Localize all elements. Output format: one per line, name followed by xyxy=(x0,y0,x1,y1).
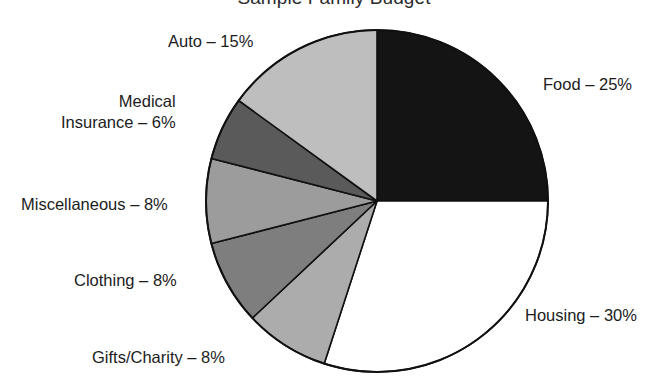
slice-label-auto: Auto – 15% xyxy=(168,31,253,52)
slice-label-food-line-1: Food – 25% xyxy=(543,74,632,95)
pie-slice-food[interactable] xyxy=(377,30,548,201)
pie-slice-group xyxy=(206,30,548,372)
slice-label-gifts-charity-line-1: Gifts/Charity – 8% xyxy=(92,347,225,368)
slice-label-medical-insurance-line-1: Medical xyxy=(61,91,176,112)
slice-label-gifts-charity: Gifts/Charity – 8% xyxy=(92,347,225,368)
slice-label-housing-line-1: Housing – 30% xyxy=(525,305,637,326)
slice-label-miscellaneous-line-1: Miscellaneous – 8% xyxy=(21,194,168,215)
slice-label-miscellaneous: Miscellaneous – 8% xyxy=(21,194,168,215)
slice-label-auto-line-1: Auto – 15% xyxy=(168,31,253,52)
slice-label-medical-insurance: Medical Insurance – 6% xyxy=(61,91,176,133)
slice-label-clothing: Clothing – 8% xyxy=(74,270,177,291)
slice-label-medical-insurance-line-2: Insurance – 6% xyxy=(61,112,176,133)
slice-label-food: Food – 25% xyxy=(543,74,632,95)
slice-label-clothing-line-1: Clothing – 8% xyxy=(74,270,177,291)
slice-label-housing: Housing – 30% xyxy=(525,305,637,326)
pie-chart: Sample Family Budget Food – 25% Housing … xyxy=(0,0,668,381)
